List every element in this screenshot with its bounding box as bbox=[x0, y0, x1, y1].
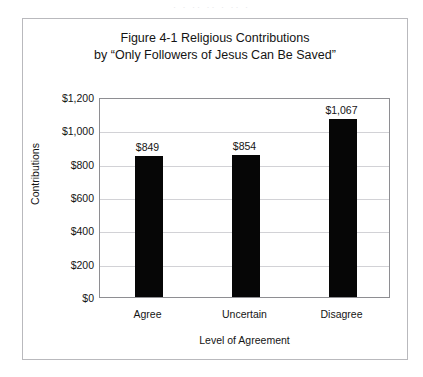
figure-title-line-2: by “Only Followers of Jesus Can Be Saved… bbox=[22, 47, 408, 64]
bar-value-label: $849 bbox=[108, 141, 188, 153]
bar bbox=[135, 156, 163, 298]
bar-value-label: $1,067 bbox=[302, 104, 382, 116]
bar bbox=[232, 155, 260, 297]
y-axis-tick-label: $1,200 bbox=[62, 92, 94, 104]
y-axis-tick-label: $800 bbox=[71, 159, 94, 171]
x-axis-tick-label: Uncertain bbox=[200, 308, 290, 320]
y-axis-tick-label: $0 bbox=[82, 292, 94, 304]
y-axis-tick-label: $400 bbox=[71, 225, 94, 237]
x-axis-title: Level of Agreement bbox=[99, 334, 390, 346]
scan-artifact: · · ·· ·· · ·· · bbox=[0, 0, 423, 14]
bar bbox=[329, 119, 357, 297]
bar-value-label: $854 bbox=[205, 140, 285, 152]
y-axis-tick-label: $600 bbox=[71, 192, 94, 204]
y-axis-tick-label: $200 bbox=[71, 259, 94, 271]
y-axis-tick-labels: $0$200$400$600$800$1,000$1,200 bbox=[40, 98, 94, 298]
x-axis-tick-label: Disagree bbox=[297, 308, 387, 320]
plot-area bbox=[99, 98, 390, 298]
figure-title-line-1: Figure 4-1 Religious Contributions bbox=[22, 30, 408, 47]
x-axis-tick-label: Agree bbox=[103, 308, 193, 320]
y-axis-tick-label: $1,000 bbox=[62, 125, 94, 137]
figure-title: Figure 4-1 Religious Contributions by “O… bbox=[22, 30, 408, 64]
